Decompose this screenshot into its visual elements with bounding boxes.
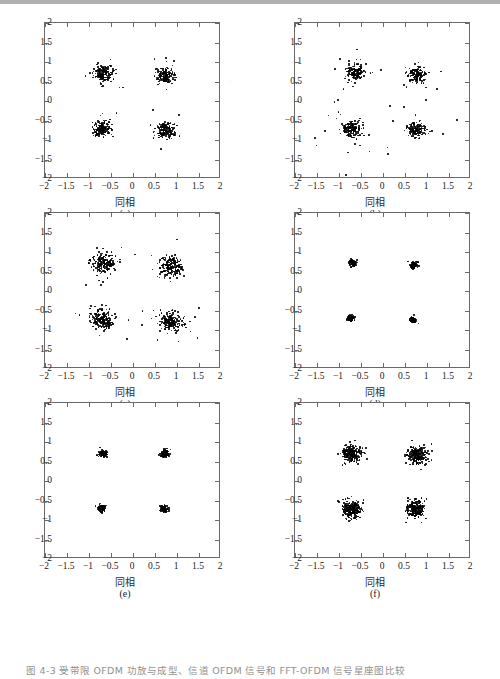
scatter-point bbox=[100, 510, 102, 512]
y-tick-label: 2 bbox=[47, 207, 52, 217]
scatter-point bbox=[412, 464, 414, 466]
scatter-point bbox=[353, 75, 355, 77]
y-tick-label: 1 bbox=[47, 56, 52, 66]
scatter-point bbox=[359, 73, 361, 75]
x-tick-label: 0 bbox=[380, 561, 385, 571]
scatter-point bbox=[356, 461, 358, 463]
x-tickmark-top bbox=[199, 23, 200, 27]
scatter-point bbox=[152, 269, 154, 271]
scatter-point bbox=[336, 118, 338, 120]
scatter-point bbox=[428, 461, 430, 463]
scatter-point bbox=[342, 499, 344, 501]
scatter-point bbox=[110, 59, 112, 61]
scatter-point bbox=[111, 73, 113, 75]
scatter-point bbox=[357, 70, 359, 72]
y-tick-label: −1 bbox=[292, 324, 302, 334]
y-tickmark-right bbox=[215, 403, 219, 404]
x-tickmark-top bbox=[111, 23, 112, 27]
scatter-point bbox=[403, 106, 405, 108]
scatter-point bbox=[93, 317, 95, 319]
scatter-point bbox=[350, 259, 352, 261]
scatter-point bbox=[407, 75, 409, 77]
scatter-point bbox=[338, 111, 340, 113]
scatter-point bbox=[412, 131, 414, 133]
scatter-point bbox=[354, 316, 356, 318]
scatter-point bbox=[357, 77, 359, 79]
scatter-point bbox=[416, 265, 418, 267]
scatter-point bbox=[422, 513, 424, 515]
plot-block-c: −2−1.5−1−0.500.511.52−2−1.5−1−0.500.511.… bbox=[0, 198, 250, 388]
scatter-point bbox=[170, 316, 172, 318]
scatter-point bbox=[189, 321, 191, 323]
x-tick-label: 1.5 bbox=[442, 371, 454, 381]
scatter-point bbox=[356, 59, 358, 61]
scatter-point bbox=[160, 148, 162, 150]
scatter-point bbox=[93, 265, 95, 267]
scatter-point bbox=[164, 451, 166, 453]
scatter-point bbox=[108, 315, 110, 317]
scatter-point bbox=[102, 510, 104, 512]
axes-box-a bbox=[44, 22, 220, 178]
scatter-point bbox=[354, 517, 356, 519]
x-tickmark-top bbox=[133, 213, 134, 217]
y-tick-label: −1.5 bbox=[285, 344, 302, 354]
scatter-point bbox=[105, 451, 107, 453]
scatter-point bbox=[173, 127, 175, 129]
y-tick-label: −0.5 bbox=[285, 305, 302, 315]
scatter-point bbox=[423, 458, 425, 460]
scatter-point bbox=[421, 447, 423, 449]
scatter-point bbox=[363, 75, 365, 77]
scatter-point bbox=[168, 264, 170, 266]
scatter-point bbox=[185, 327, 187, 329]
scatter-point bbox=[344, 78, 346, 80]
y-tick-label: 2 bbox=[47, 17, 52, 27]
x-tick-label: 1.5 bbox=[442, 561, 454, 571]
scatter-point bbox=[109, 119, 111, 121]
scatter-point bbox=[168, 272, 170, 274]
y-tick-label: 1 bbox=[47, 246, 52, 256]
y-tick-labels: −2−1.5−1−0.500.511.52 bbox=[266, 388, 302, 578]
x-tickmark bbox=[317, 363, 318, 367]
scatter-point bbox=[108, 255, 110, 257]
scatter-point bbox=[90, 305, 92, 307]
x-tick-label: 2 bbox=[218, 181, 223, 191]
scatter-point bbox=[413, 123, 415, 125]
scatter-point bbox=[165, 321, 167, 323]
scatter-point bbox=[419, 505, 421, 507]
scatter-point bbox=[97, 62, 99, 64]
scatter-point bbox=[114, 313, 116, 315]
scatter-point bbox=[166, 505, 168, 507]
y-tickmark-right bbox=[465, 520, 469, 521]
x-tick-label: 0 bbox=[380, 181, 385, 191]
scatter-point bbox=[431, 443, 433, 445]
scatter-point bbox=[101, 304, 103, 306]
scatter-point bbox=[350, 318, 352, 320]
y-tickmark-right bbox=[215, 272, 219, 273]
scatter-point bbox=[89, 308, 91, 310]
scatter-point bbox=[409, 68, 411, 70]
y-tick-label: 2 bbox=[297, 17, 302, 27]
scatter-point bbox=[176, 239, 178, 241]
scatter-point bbox=[414, 458, 416, 460]
scatter-point bbox=[358, 125, 360, 127]
scatter-point bbox=[349, 511, 351, 513]
scatter-point bbox=[418, 500, 420, 502]
scatter-point bbox=[108, 265, 110, 267]
axes-box-b bbox=[294, 22, 470, 178]
scatter-point bbox=[420, 76, 422, 78]
scatter-point bbox=[96, 317, 98, 319]
scatter-point bbox=[361, 72, 363, 74]
scatter-point bbox=[349, 135, 351, 137]
x-tickmark bbox=[427, 363, 428, 367]
scatter-point bbox=[112, 70, 114, 72]
scatter-point bbox=[365, 447, 367, 449]
scatter-point bbox=[421, 75, 423, 77]
scatter-point bbox=[98, 129, 100, 131]
scatter-point bbox=[355, 454, 357, 456]
scatter-point bbox=[424, 451, 426, 453]
scatter-point bbox=[360, 77, 362, 79]
scatter-point bbox=[115, 73, 117, 75]
scatter-point bbox=[102, 253, 104, 255]
scatter-point bbox=[358, 457, 360, 459]
scatter-point bbox=[349, 264, 351, 266]
